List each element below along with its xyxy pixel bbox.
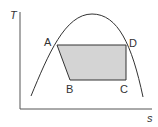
point-label-b: B (66, 83, 73, 95)
y-axis-label: T (10, 9, 18, 21)
point-label-c: C (120, 83, 128, 95)
x-axis-label: s (147, 112, 153, 124)
point-label-d: D (129, 37, 137, 49)
cycle-region (57, 45, 126, 80)
point-label-a: A (44, 36, 52, 48)
ts-diagram: T s A D B C (0, 0, 158, 127)
